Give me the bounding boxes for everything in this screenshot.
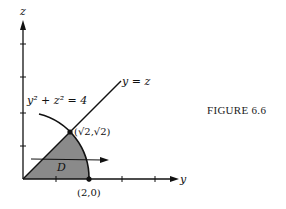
intersection-point — [67, 129, 72, 134]
z-axis-arrow-icon — [20, 20, 26, 30]
region-label: D — [56, 161, 66, 174]
region-d — [23, 132, 89, 179]
line-equation-label: y = z — [121, 75, 150, 88]
intersection-label: (√2,√2) — [74, 126, 111, 137]
y-axis-arrow-icon — [170, 176, 179, 182]
y-axis-label: y — [179, 173, 187, 186]
figure-caption: FIGURE 6.6 — [207, 104, 266, 116]
axis-point-label: (2,0) — [77, 187, 101, 198]
circle-equation-label: y² + z² = 4 — [26, 94, 87, 107]
z-axis-label: z — [19, 5, 26, 18]
horizontal-arrow-head-icon — [100, 157, 109, 163]
axis-point — [86, 176, 91, 181]
